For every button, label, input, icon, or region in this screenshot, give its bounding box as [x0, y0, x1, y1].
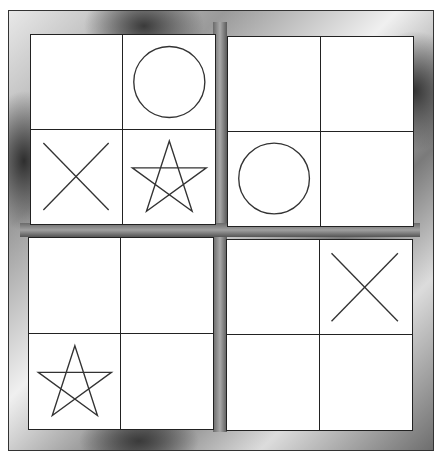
cell-top-left-3[interactable] — [123, 130, 215, 225]
star-mark-icon — [127, 133, 212, 220]
star-mark-icon — [33, 337, 117, 425]
quadrant-top-left — [30, 34, 216, 225]
cell-top-right-0[interactable] — [228, 37, 321, 132]
circle-mark-icon — [127, 39, 212, 125]
cell-bottom-right-1[interactable] — [320, 240, 413, 335]
cell-bottom-left-0[interactable] — [29, 238, 121, 334]
quadrant-bottom-left — [28, 237, 214, 430]
cell-top-left-2[interactable] — [31, 130, 123, 225]
cell-bottom-right-2[interactable] — [227, 335, 320, 430]
cell-top-right-2[interactable] — [228, 132, 321, 227]
cell-top-right-1[interactable] — [321, 37, 414, 132]
cell-bottom-right-3[interactable] — [320, 335, 413, 430]
circle-mark-icon — [232, 135, 316, 222]
cross-mark-icon — [35, 133, 119, 220]
cell-bottom-right-0[interactable] — [227, 240, 320, 335]
cell-top-right-3[interactable] — [321, 132, 414, 227]
cell-bottom-left-1[interactable] — [121, 238, 213, 334]
cross-mark-icon — [323, 244, 408, 330]
cell-bottom-left-3[interactable] — [121, 334, 213, 430]
cell-bottom-left-2[interactable] — [29, 334, 121, 430]
quadrant-bottom-right — [226, 239, 413, 431]
cell-top-left-1[interactable] — [123, 35, 215, 130]
quadrant-top-right — [227, 36, 414, 227]
cell-top-left-0[interactable] — [31, 35, 123, 130]
